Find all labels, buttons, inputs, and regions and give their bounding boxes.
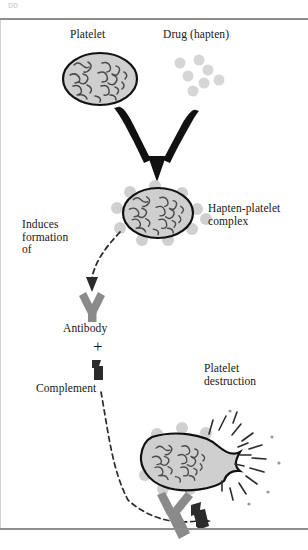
- induces-formation-arrow: [86, 232, 120, 292]
- convergence-arrow: [114, 107, 199, 182]
- platelet-label: Platelet: [70, 28, 105, 41]
- induces-formation-label: Induces formation of: [22, 218, 68, 256]
- drug-hapten-dots: [175, 55, 225, 97]
- bound-complement-icon: [191, 502, 209, 530]
- complement-label: Complement: [36, 382, 96, 395]
- platelet-cell: [63, 53, 137, 105]
- bound-antibody-icon: [157, 492, 193, 539]
- bottom-divider-rule: [0, 528, 308, 530]
- plus-sign-label: +: [93, 338, 103, 355]
- diagram-artwork: [0, 0, 308, 550]
- antibody-label: Antibody: [63, 322, 107, 335]
- platelet-destruction-label: Platelet destruction: [204, 362, 256, 387]
- hapten-platelet-complex: [111, 180, 212, 246]
- antibody-icon: [79, 292, 105, 322]
- figure-panel: pp: [0, 0, 308, 550]
- hapten-platelet-complex-label: Hapten-platelet complex: [208, 202, 280, 227]
- drug-hapten-label: Drug (hapten): [163, 28, 229, 41]
- complement-icon: [92, 360, 103, 380]
- destroyed-platelet-cell: [139, 422, 240, 495]
